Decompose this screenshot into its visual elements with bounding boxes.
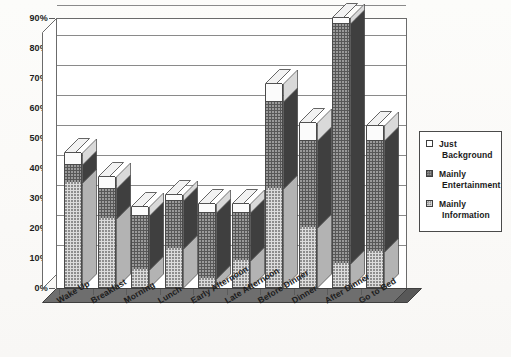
x-axis-tick-label: Lunch [156, 284, 183, 306]
legend-item-label: Just Background [439, 139, 501, 160]
mainly-information-swatch [426, 200, 433, 207]
legend-item-label: Mainly Information [439, 199, 501, 220]
x-axis-tick-label: Breakfast [89, 277, 128, 306]
legend-item: Mainly Entertainment [426, 169, 501, 190]
chart-legend: Just Background Mainly Entertainment Mai… [419, 131, 502, 232]
chart-page: 0%10%20%30%40%50%60%70%80%90% Wake UpBre… [0, 0, 511, 357]
x-axis-tick-label: Dinner [290, 283, 319, 306]
legend-label-line1: Mainly [439, 169, 466, 179]
legend-label-line2: Background [439, 150, 501, 161]
legend-item-label: Mainly Entertainment [439, 169, 501, 190]
legend-label-line1: Just [439, 139, 457, 149]
x-axis-tick-label: Wake Up [55, 278, 91, 305]
legend-label-line2: Entertainment [439, 180, 501, 191]
legend-item: Just Background [426, 139, 501, 160]
just-background-swatch [426, 140, 433, 147]
legend-label-line2: Information [439, 210, 501, 221]
legend-item: Mainly Information [426, 199, 501, 220]
legend-label-line1: Mainly [439, 199, 466, 209]
mainly-entertainment-swatch [426, 170, 433, 177]
x-axis-tick-label: Early Afternoon [189, 264, 250, 306]
